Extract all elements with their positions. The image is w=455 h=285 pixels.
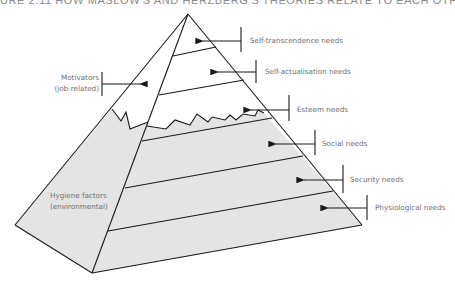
motivators-sublabel: (job-related) [54,84,99,93]
level-label-self-actualisation: Self-actualisation needs [265,67,351,76]
level-label-security: Security needs [350,175,404,184]
hygiene-label: Hygiene factors [50,191,107,200]
level-label-social: Social needs [322,139,368,148]
level-label-self-transcendence: Self-transcendence needs [250,36,343,45]
hygiene-sublabel: (environmental) [50,202,108,211]
maslow-herzberg-pyramid: Motivators (job-related) Hygiene factors… [0,0,455,285]
motivators-callout: Motivators (job-related) [54,72,140,96]
level-label-esteem: Esteem needs [297,105,348,114]
level-label-physiological: Physiological needs [375,203,446,212]
motivators-label: Motivators [61,73,99,82]
